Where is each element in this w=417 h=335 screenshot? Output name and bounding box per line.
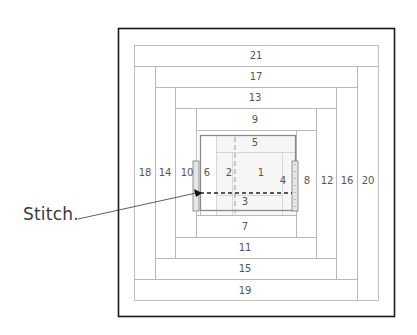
strip-label-16: 16: [341, 175, 354, 186]
strip-label-9: 9: [252, 114, 258, 125]
strip-label-21: 21: [250, 50, 263, 61]
strip-label-4: 4: [280, 175, 286, 186]
strip-label-8: 8: [304, 175, 310, 186]
strip-label-19: 19: [239, 285, 252, 296]
strip-label-7: 7: [242, 221, 248, 232]
left-seam-tab: [193, 161, 199, 211]
strip-label-11: 11: [239, 242, 252, 253]
strip-label-14: 14: [159, 167, 172, 178]
strip-label-13: 13: [249, 92, 262, 103]
strip-label-20: 20: [362, 175, 375, 186]
strip-label-2: 2: [226, 167, 232, 178]
strip-label-5: 5: [252, 137, 258, 148]
strip-label-10: 10: [181, 167, 194, 178]
strip-label-1: 1: [258, 167, 264, 178]
strip-label-3: 3: [242, 196, 248, 207]
stitch-callout-label: Stitch.: [23, 204, 79, 224]
strip-label-15: 15: [239, 263, 252, 274]
strip-label-6: 6: [204, 167, 210, 178]
strip-label-12: 12: [321, 175, 334, 186]
strip-label-17: 17: [250, 71, 263, 82]
log-cabin-diagram: 123456789101112131415161718192021: [0, 0, 417, 335]
strip-label-18: 18: [139, 167, 152, 178]
